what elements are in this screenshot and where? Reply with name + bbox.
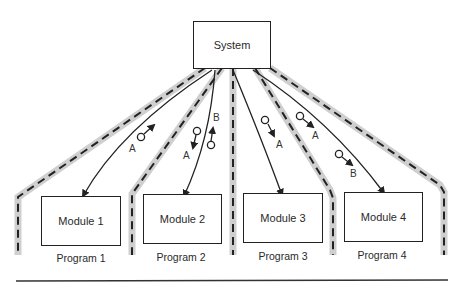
flow-label-a-module2: A: [183, 150, 190, 161]
flow-label-a-module4: A: [312, 130, 319, 141]
module-2-label: Module 2: [160, 213, 205, 225]
module-2-box: Module 2: [143, 194, 222, 244]
program-3-label: Program 3: [238, 250, 328, 262]
program-2-label: Program 2: [136, 251, 226, 263]
program-1-label: Program 1: [36, 252, 126, 264]
module-4-box: Module 4: [344, 192, 423, 242]
program-4-label: Program 4: [337, 249, 427, 261]
module-1-box: Module 1: [41, 196, 121, 246]
flow-label-b-module2: B: [213, 112, 220, 123]
system-box: System: [193, 21, 271, 69]
module-4-label: Module 4: [361, 211, 406, 223]
module-1-label: Module 1: [58, 215, 103, 227]
module-3-label: Module 3: [260, 212, 305, 224]
system-label: System: [214, 39, 251, 51]
flow-label-b-module4: B: [350, 168, 357, 179]
module-3-box: Module 3: [243, 193, 323, 243]
flow-label-a-module3: A: [276, 139, 283, 150]
flow-label-a-module1: A: [129, 143, 136, 154]
bottom-rule: [16, 280, 448, 281]
